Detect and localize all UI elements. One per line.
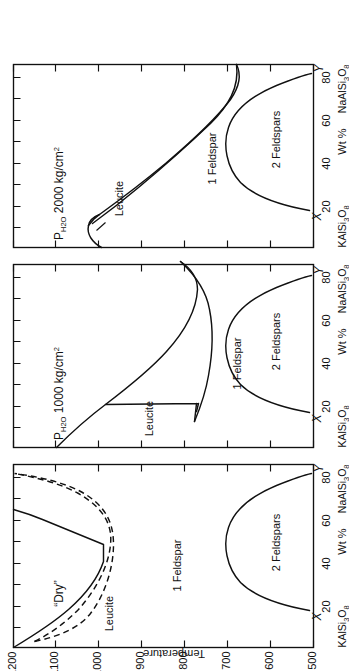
figure-stage: “Dry” Leucite 1 Feldspar 2 Feldspars X Y… — [0, 0, 349, 671]
panel-1000-field-one: 1 Feldspar — [230, 337, 242, 389]
panel-1000-liquidus — [56, 261, 197, 447]
svg-text:80: 80 — [319, 71, 331, 83]
svg-text:80: 80 — [319, 471, 331, 483]
svg-text:40: 40 — [319, 157, 331, 169]
panel-1000-solidus — [180, 261, 212, 421]
panel-1000-title: PH2O 1000 kg/cm2 — [51, 347, 67, 440]
panel-2000-field-two: 2 Feldspars — [269, 110, 281, 168]
panel-2000-field-one: 1 Feldspar — [205, 132, 217, 184]
svg-text:20: 20 — [319, 400, 331, 412]
panel-dry-title: “Dry” — [51, 580, 65, 607]
panel-2000-leucite-leader — [96, 222, 105, 230]
panel-dry-frame — [13, 464, 313, 647]
y-tick-500: 500 — [306, 651, 318, 669]
panel-1000-endmember-left: KAlSi3O8 — [335, 405, 349, 447]
panel-1000-x-axis-label: Wt % — [335, 328, 347, 354]
y-tick-1100: 1100 — [48, 651, 60, 671]
panel-2000-endmember-left: KAlSi3O8 — [335, 205, 349, 247]
panel-1000-leucite-label: Leucite — [142, 400, 154, 435]
panel-2000-title: PH2O 2000 kg/cm2 — [51, 147, 67, 240]
phase-diagram-svg: “Dry” Leucite 1 Feldspar 2 Feldspars X Y… — [0, 0, 349, 671]
panel-2000: PH2O 2000 kg/cm2 Leucite 1 Feldspar 2 Fe… — [13, 63, 349, 247]
panel-dry: “Dry” Leucite 1 Feldspar 2 Feldspars X Y… — [13, 463, 349, 647]
y-tick-1000: 1000 — [91, 651, 103, 671]
panel-2000-leucite-label: Leucite — [112, 180, 124, 215]
panel-2000-x-axis-label: Wt % — [335, 128, 347, 154]
svg-text:80: 80 — [319, 271, 331, 283]
y-tick-800: 800 — [177, 651, 189, 669]
panel-dry-field-two: 2 Feldspars — [269, 513, 281, 571]
temperature-axis: 1200 1100 1000 900 800 700 600 500 — [6, 651, 318, 671]
panel-dry-solvus — [225, 473, 311, 610]
panel-dry-y-ticks — [13, 464, 313, 647]
y-tick-700: 700 — [220, 651, 232, 669]
svg-text:60: 60 — [319, 514, 331, 526]
svg-text:60: 60 — [319, 114, 331, 126]
panel-1000-field-two: 2 Feldspars — [269, 312, 281, 370]
panel-dry-leucite-label: Leucite — [102, 595, 114, 630]
panel-1000-endmember-right: NaAlSi3O8 — [335, 264, 349, 313]
panel-2000-endmember-right: NaAlSi3O8 — [335, 64, 349, 113]
y-tick-900: 900 — [134, 651, 146, 669]
panel-dry-liquidus — [13, 509, 103, 647]
panel-dry-endmember-left: KAlSi3O8 — [335, 605, 349, 647]
panel-1000-point-x: X — [309, 413, 323, 423]
panel-dry-x-tick-labels: 20 40 60 80 — [319, 471, 331, 612]
panel-dry-endmember-right: NaAlSi3O8 — [335, 464, 349, 513]
y-tick-600: 600 — [263, 651, 275, 669]
panel-1000: PH2O 1000 kg/cm2 Leucite 1 Feldspar 2 Fe… — [13, 261, 349, 447]
y-tick-1200: 1200 — [6, 651, 18, 671]
panel-dry-solidus-upper — [14, 473, 110, 641]
svg-text:40: 40 — [319, 357, 331, 369]
panel-2000-x-tick-labels: 20 40 60 80 — [319, 71, 331, 212]
panel-dry-field-one: 1 Feldspar — [170, 539, 182, 591]
svg-text:60: 60 — [319, 314, 331, 326]
svg-text:20: 20 — [319, 200, 331, 212]
svg-text:20: 20 — [319, 600, 331, 612]
svg-text:40: 40 — [319, 557, 331, 569]
panel-dry-solidus-lower — [14, 473, 113, 641]
phase-diagram-figure: “Dry” Leucite 1 Feldspar 2 Feldspars X Y… — [0, 0, 349, 671]
panel-dry-x-axis-label: Wt % — [335, 528, 347, 554]
panel-1000-x-tick-labels: 20 40 60 80 — [319, 271, 331, 412]
panel-2000-solvus — [225, 73, 311, 210]
